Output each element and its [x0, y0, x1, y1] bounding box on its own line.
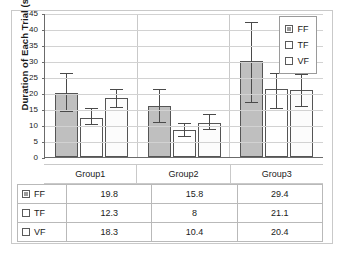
y-tick-mark	[42, 142, 45, 143]
gridline	[45, 110, 323, 111]
table-series-label: FF	[34, 189, 45, 199]
error-cap-upper	[203, 114, 216, 115]
error-cap-upper	[110, 89, 123, 90]
table-row: FF19.815.829.4	[18, 185, 323, 204]
error-cap-upper	[85, 108, 98, 109]
y-tick-label: 15	[29, 106, 38, 114]
error-bar	[66, 74, 67, 112]
chart-figure: Duration of Each Trial (s) 0510152025303…	[0, 0, 345, 255]
bar-group	[138, 14, 231, 157]
y-tick-mark	[42, 30, 45, 31]
group-label: Group3	[231, 165, 323, 183]
y-tick-label: 5	[34, 138, 38, 146]
gridline	[45, 14, 323, 15]
bar-set	[138, 14, 231, 157]
error-cap-lower	[245, 102, 258, 103]
error-cap-lower	[60, 111, 73, 112]
table-value-cell: 8	[152, 204, 237, 223]
group-label: Group1	[44, 165, 137, 183]
y-tick-mark	[42, 14, 45, 15]
error-cap-lower	[85, 124, 98, 125]
error-cap-upper	[178, 123, 191, 124]
y-tick-label: 30	[29, 58, 38, 66]
y-tick-label: 20	[29, 90, 38, 98]
legend-label: TF	[297, 41, 308, 50]
series-label-cell: VF	[18, 223, 67, 242]
error-cap-lower	[270, 108, 283, 109]
series-label-cell: TF	[18, 204, 67, 223]
data-table: FF19.815.829.4TF12.3821.1VF18.310.420.4	[17, 184, 323, 242]
error-cap-upper	[153, 89, 166, 90]
error-cap-upper	[245, 22, 258, 23]
y-tick-mark	[42, 110, 45, 111]
legend-swatch-icon	[285, 57, 293, 65]
table-value-cell: 19.8	[67, 185, 152, 204]
gridline	[45, 94, 323, 95]
legend-label: VF	[297, 57, 309, 66]
y-tick-mark	[42, 46, 45, 47]
bar-cell	[55, 14, 78, 157]
y-tick-mark	[42, 94, 45, 95]
legend-label: FF	[297, 25, 308, 34]
y-tick-label: 40	[29, 26, 38, 34]
error-cap-lower	[153, 122, 166, 123]
error-bar	[91, 109, 92, 125]
legend-swatch-icon	[285, 25, 293, 33]
bar-cell	[198, 14, 221, 157]
legend-swatch-icon	[285, 41, 293, 49]
plot-wrapper: 051015202530354045 FFTFVF	[20, 14, 325, 164]
legend-item-ff[interactable]: FF	[285, 21, 309, 37]
legend-item-tf[interactable]: TF	[285, 37, 309, 53]
bar-cell	[105, 14, 128, 157]
error-bar	[276, 74, 277, 109]
y-tick-label: 35	[29, 42, 38, 50]
y-tick-label: 45	[29, 10, 38, 18]
bar-cell	[173, 14, 196, 157]
y-tick-label: 10	[29, 122, 38, 130]
table-value-cell: 20.4	[237, 223, 322, 242]
error-bar	[116, 90, 117, 109]
bar-cell	[80, 14, 103, 157]
error-cap-lower	[110, 107, 123, 108]
table-value-cell: 21.1	[237, 204, 322, 223]
table-value-cell: 12.3	[67, 204, 152, 223]
table-value-cell: 29.4	[237, 185, 322, 204]
table-row: VF18.310.420.4	[18, 223, 323, 242]
bar-cell	[240, 14, 263, 157]
error-cap-lower	[203, 129, 216, 130]
table-value-cell: 10.4	[152, 223, 237, 242]
y-tick-label: 0	[34, 154, 38, 162]
bar-group	[45, 14, 138, 157]
table-row: TF12.3821.1	[18, 204, 323, 223]
gridline	[45, 142, 323, 143]
legend-item-vf[interactable]: VF	[285, 53, 309, 69]
y-tick-label: 25	[29, 74, 38, 82]
table-series-label: VF	[34, 227, 46, 237]
group-label-band: Group1Group2Group3	[44, 164, 323, 184]
table-value-cell: 15.8	[152, 185, 237, 204]
table-swatch-icon	[22, 190, 30, 198]
bar-cell	[148, 14, 171, 157]
table-swatch-icon	[22, 209, 30, 217]
error-cap-upper	[295, 74, 308, 75]
y-axis-tick-labels: 051015202530354045	[20, 14, 40, 158]
y-tick-mark	[42, 126, 45, 127]
series-label-cell: FF	[18, 185, 67, 204]
y-tick-mark	[42, 62, 45, 63]
error-cap-lower	[295, 106, 308, 107]
error-bar	[301, 75, 302, 107]
error-cap-lower	[178, 136, 191, 137]
table-series-label: TF	[34, 208, 45, 218]
y-tick-mark	[42, 158, 45, 159]
gridline	[45, 78, 323, 79]
error-cap-upper	[60, 73, 73, 74]
error-bar	[209, 115, 210, 129]
table-swatch-icon	[22, 228, 30, 236]
y-tick-mark	[42, 78, 45, 79]
group-label: Group2	[137, 165, 230, 183]
chart-legend: FFTFVF	[279, 16, 317, 74]
bar-set	[45, 14, 138, 157]
table-value-cell: 18.3	[67, 223, 152, 242]
gridline	[45, 126, 323, 127]
